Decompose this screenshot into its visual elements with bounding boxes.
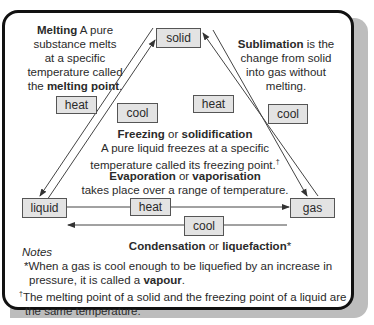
notes-section: Notes *When a gas is cool enough to be l…: [22, 245, 352, 318]
label-sublimation-heat: heat: [193, 95, 234, 113]
state-gas: gas: [290, 198, 335, 218]
sublimation-term: Sublimation: [238, 38, 304, 50]
label-freezing-cool: cool: [117, 103, 158, 123]
label-melting-heat: heat: [56, 96, 97, 114]
sublimation-description: Sublimation is the change from solid int…: [226, 37, 346, 93]
melting-description: Melting A pure substance melts at a spec…: [20, 23, 130, 93]
freezing-description: Freezing or solidification A pure liquid…: [70, 127, 300, 172]
state-liquid: liquid: [22, 198, 67, 218]
state-solid: solid: [156, 28, 201, 48]
label-condensation-cool: cool: [184, 216, 224, 236]
label-deposition-cool: cool: [268, 104, 308, 124]
evaporation-description: Evaporation or vaporisation takes place …: [60, 169, 310, 197]
melting-term: Melting: [37, 24, 77, 36]
note-2: The melting point of a solid and the fre…: [23, 291, 346, 303]
notes-heading: Notes: [22, 246, 52, 258]
note-1: *When a gas is cool enough to be liquefi…: [24, 260, 332, 272]
label-evaporation-heat: heat: [130, 198, 171, 216]
